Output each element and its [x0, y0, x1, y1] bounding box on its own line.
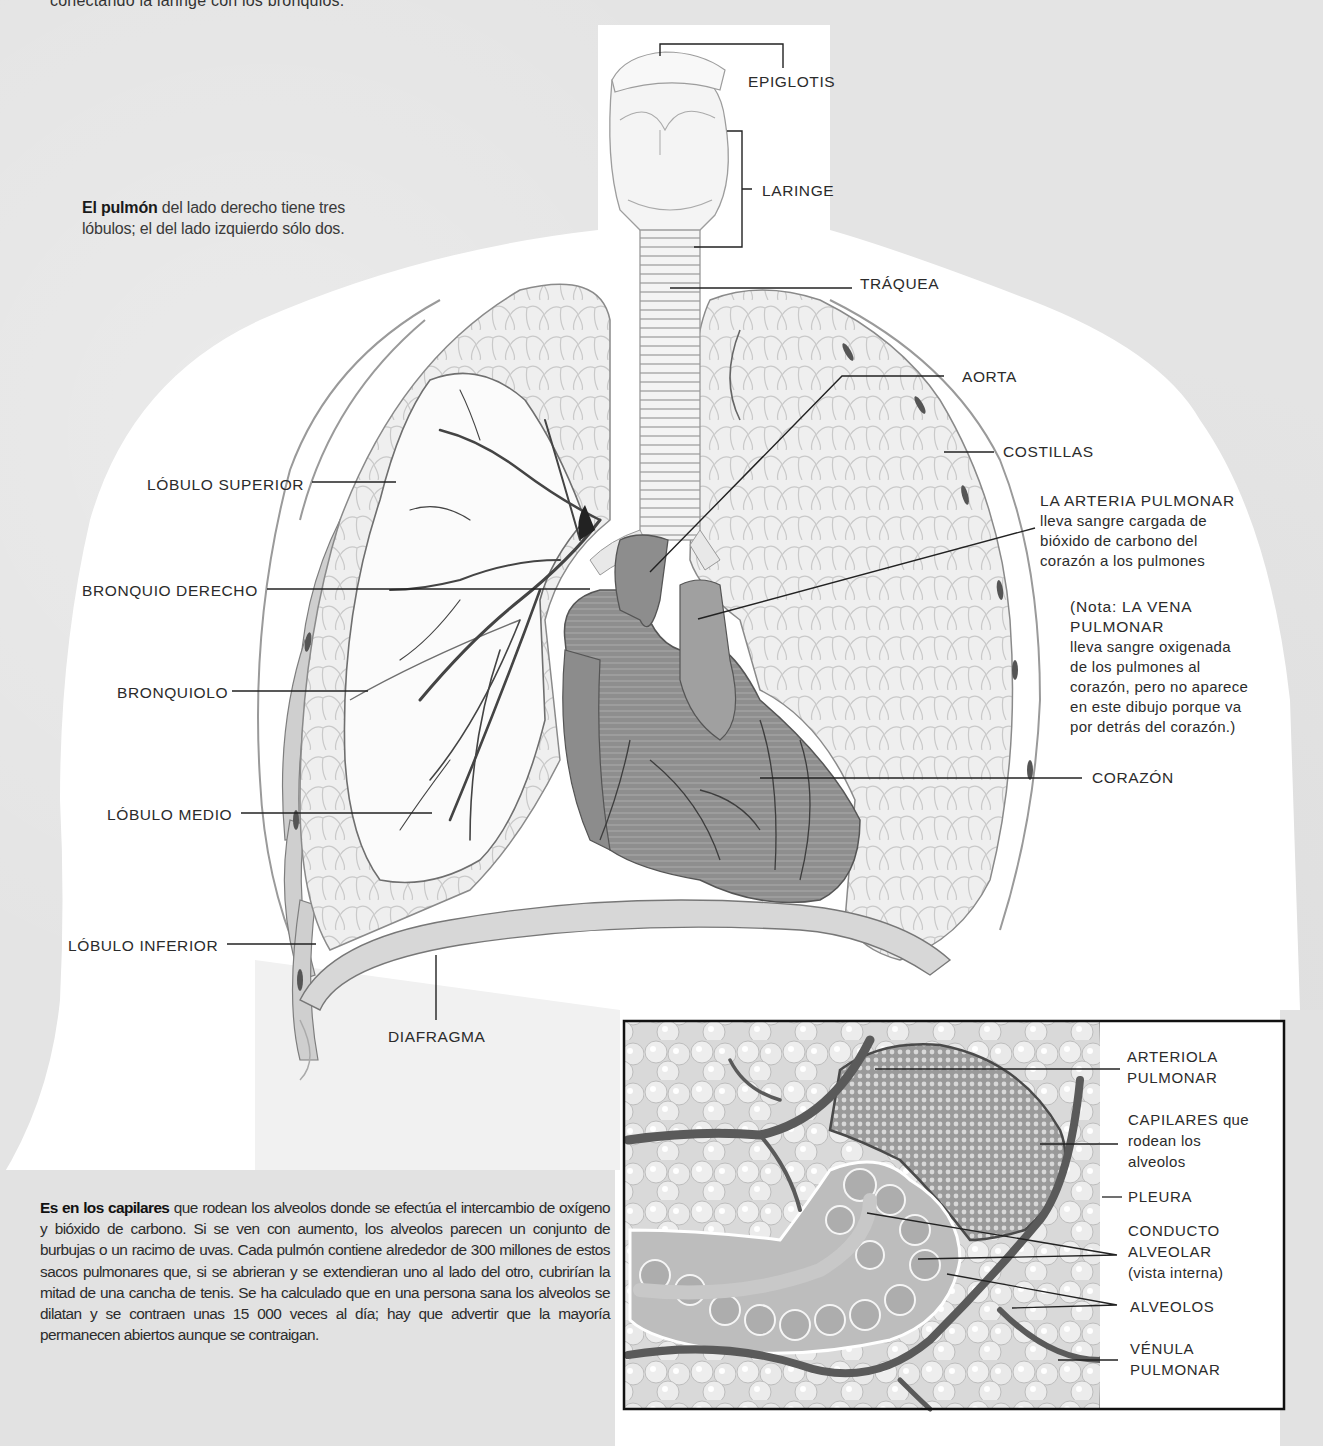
- label-lobulo-medio: LÓBULO MEDIO: [107, 807, 232, 823]
- note-arteria-line: corazón a los pulmones: [1040, 551, 1235, 571]
- inset-label-arteriola: ARTERIOLA PULMONAR: [1127, 1046, 1218, 1088]
- inset-label-alveolos: ALVEOLOS: [1130, 1296, 1215, 1317]
- label-epiglotis: EPIGLOTIS: [748, 74, 835, 90]
- label-aorta: AORTA: [962, 369, 1017, 385]
- note-vena-line: en este dibujo porque va: [1070, 697, 1248, 717]
- inset-label-line: CONDUCTO: [1128, 1220, 1223, 1241]
- note-vena-line: corazón, pero no aparece: [1070, 677, 1248, 697]
- note-arteria-pulmonar: LA ARTERIA PULMONAR lleva sangre cargada…: [1040, 491, 1235, 571]
- inset-label-line: rodean los: [1128, 1130, 1249, 1151]
- note-vena-line: PULMONAR: [1070, 617, 1248, 637]
- paragraph-text: que rodean los alveolos donde se efectúa…: [40, 1199, 610, 1343]
- label-diafragma: DIAFRAGMA: [388, 1029, 486, 1045]
- inset-label-line: ALVEOLAR: [1128, 1241, 1223, 1262]
- inset-label-line: PULMONAR: [1130, 1359, 1221, 1380]
- label-traquea: TRÁQUEA: [860, 276, 939, 292]
- note-vena-line: de los pulmones al: [1070, 657, 1248, 677]
- label-bronquio-derecho: BRONQUIO DERECHO: [82, 583, 258, 599]
- inset-label-line: VÉNULA: [1130, 1338, 1221, 1359]
- note-vena-pulmonar: (Nota: LA VENA PULMONAR lleva sangre oxi…: [1070, 597, 1248, 737]
- larynx: [610, 67, 729, 230]
- intro-caption: El pulmón del lado derecho tiene tres ló…: [82, 197, 402, 239]
- intro-bold: El pulmón: [82, 199, 158, 216]
- label-costillas: COSTILLAS: [1003, 444, 1094, 460]
- inset-label-line: ARTERIOLA: [1127, 1046, 1218, 1067]
- note-arteria-line: bióxido de carbono del: [1040, 531, 1235, 551]
- inset-label-line: que: [1219, 1111, 1249, 1128]
- inset-label-capilares: CAPILARES que rodean los alveolos: [1128, 1109, 1249, 1172]
- inset-label-line: (vista interna): [1128, 1262, 1223, 1283]
- note-vena-line: (Nota: LA VENA: [1070, 597, 1248, 617]
- label-lobulo-inferior: LÓBULO INFERIOR: [68, 938, 218, 954]
- label-bronquiolo: BRONQUIOLO: [117, 685, 228, 701]
- inset-label-line: PULMONAR: [1127, 1067, 1218, 1088]
- inset-label-pleura: PLEURA: [1128, 1186, 1192, 1207]
- note-arteria-line: lleva sangre cargada de: [1040, 511, 1235, 531]
- inset-label-line: CAPILARES: [1128, 1111, 1219, 1128]
- capillaries-paragraph: Es en los capilares que rodean los alveo…: [40, 1197, 610, 1345]
- note-arteria-title: LA ARTERIA PULMONAR: [1040, 491, 1235, 511]
- inset-label-conducto-alveolar: CONDUCTO ALVEOLAR (vista interna): [1128, 1220, 1223, 1283]
- inset-label-venula: VÉNULA PULMONAR: [1130, 1338, 1221, 1380]
- label-corazon: CORAZÓN: [1092, 770, 1174, 786]
- label-lobulo-superior: LÓBULO SUPERIOR: [147, 477, 304, 493]
- paragraph-bold: Es en los capilares: [40, 1199, 169, 1216]
- note-vena-line: lleva sangre oxigenada: [1070, 637, 1248, 657]
- inset-label-line: alveolos: [1128, 1151, 1249, 1172]
- note-vena-line: por detrás del corazón.): [1070, 717, 1248, 737]
- label-laringe: LARINGE: [762, 183, 834, 199]
